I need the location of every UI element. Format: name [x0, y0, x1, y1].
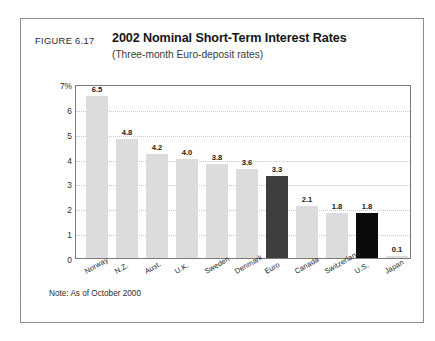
figure-note: Note: As of October 2000 — [49, 289, 141, 298]
chart-plot-area: 7%6543210 6.54.84.24.03.83.63.32.11.81.8… — [55, 81, 411, 259]
bar-value-label: 4.0 — [172, 148, 202, 157]
bar — [236, 169, 258, 258]
bar — [176, 159, 198, 258]
bar-value-label: 1.8 — [352, 202, 382, 211]
bar-group: 4.2 — [142, 84, 172, 258]
bar-group: 2.1 — [292, 84, 322, 258]
bar-group: 1.8 — [352, 84, 382, 258]
bar — [146, 154, 168, 258]
figure-number: FIGURE 6.17 — [35, 35, 95, 46]
x-axis-label: U.K. — [173, 261, 190, 276]
bar — [386, 256, 408, 258]
y-axis-tick-label: 3 — [54, 181, 72, 189]
y-axis-tick-label: 5 — [54, 132, 72, 140]
bar — [116, 139, 138, 258]
bar-group: 4.0 — [172, 84, 202, 258]
figure-screenshot: Source: Datastream FIGURE 6.17 2002 Nomi… — [0, 0, 435, 341]
bar-value-label: 3.6 — [232, 158, 262, 167]
bar-value-label: 1.8 — [322, 202, 352, 211]
x-axis-label: Aust. — [143, 259, 163, 275]
x-axis-label: N.Z. — [113, 261, 130, 276]
x-axis-label: Japan — [383, 258, 405, 276]
bar-group: 3.6 — [232, 84, 262, 258]
x-axis-label: U.S. — [353, 261, 370, 276]
bar-group: 0.1 — [382, 84, 412, 258]
bar-value-label: 4.2 — [142, 143, 172, 152]
bar — [296, 206, 318, 258]
figure-subtitle: (Three-month Euro-deposit rates) — [112, 49, 263, 60]
bar — [326, 213, 348, 258]
y-axis-tick-label: 7% — [54, 82, 72, 90]
y-axis-tick-label: 2 — [54, 206, 72, 214]
y-axis-tick-label: 4 — [54, 156, 72, 164]
bar-group: 4.8 — [112, 84, 142, 258]
bar-value-label: 2.1 — [292, 195, 322, 204]
figure-card: FIGURE 6.17 2002 Nominal Short-Term Inte… — [20, 18, 424, 323]
page-title: 2002 Nominal Short-Term Interest Rates — [112, 31, 347, 45]
bar-group: 3.8 — [202, 84, 232, 258]
bar-value-label: 0.1 — [382, 245, 412, 254]
bar-series: 6.54.84.24.03.83.63.32.11.81.80.1 — [76, 86, 410, 258]
bar-value-label: 6.5 — [82, 85, 112, 94]
bar-group: 6.5 — [82, 84, 112, 258]
y-axis-tick-label: 6 — [54, 107, 72, 115]
plot-frame: 7%6543210 6.54.84.24.03.83.63.32.11.81.8… — [75, 85, 411, 259]
y-axis-tick-label: 0 — [54, 256, 72, 264]
x-axis-label: Norway — [83, 255, 110, 276]
y-axis-tick-label: 1 — [54, 231, 72, 239]
bar — [206, 164, 228, 258]
bar-group: 1.8 — [322, 84, 352, 258]
bar-value-label: 3.8 — [202, 153, 232, 162]
x-axis-label: Euro — [263, 260, 281, 276]
bar-group: 3.3 — [262, 84, 292, 258]
bar-value-label: 4.8 — [112, 128, 142, 137]
bar-value-label: 3.3 — [262, 165, 292, 174]
bar — [266, 176, 288, 258]
bar — [86, 96, 108, 258]
